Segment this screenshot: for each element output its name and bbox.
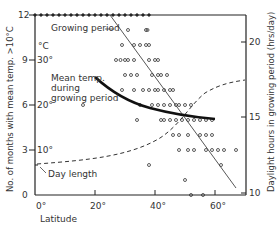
data-point bbox=[148, 89, 151, 92]
data-point bbox=[211, 134, 214, 137]
temp-tick-10: 10° bbox=[37, 146, 53, 155]
data-point bbox=[151, 104, 154, 107]
data-point bbox=[178, 134, 181, 137]
x-ticks bbox=[95, 190, 215, 195]
data-point bbox=[121, 44, 124, 47]
data-point bbox=[154, 59, 157, 62]
left-axis-title: No. of months with mean temp. >10°C bbox=[5, 26, 15, 192]
data-point bbox=[148, 44, 151, 47]
data-point bbox=[157, 59, 160, 62]
data-point bbox=[139, 44, 142, 47]
data-point bbox=[148, 59, 151, 62]
temp-tick-20: 20° bbox=[37, 101, 53, 110]
day-length-label: Day length bbox=[48, 170, 97, 179]
x-tick-20: 20° bbox=[90, 202, 106, 211]
data-point bbox=[184, 179, 187, 182]
x-axis-label: Latitude bbox=[40, 215, 77, 224]
data-point bbox=[119, 59, 122, 62]
right-tick-15: 15 bbox=[249, 113, 260, 122]
data-point bbox=[169, 104, 172, 107]
plot-svg bbox=[0, 0, 279, 227]
mean-temp-label-line3: growing period bbox=[51, 94, 119, 103]
deg-c-label: °C bbox=[38, 42, 49, 51]
data-point bbox=[235, 149, 238, 152]
y-tick-3: 3 bbox=[22, 146, 28, 155]
data-point bbox=[121, 89, 124, 92]
data-point bbox=[169, 119, 172, 122]
data-point bbox=[127, 59, 130, 62]
x-tick-40: 40° bbox=[150, 202, 166, 211]
data-point bbox=[187, 134, 190, 137]
data-point bbox=[157, 74, 160, 77]
data-point bbox=[169, 89, 172, 92]
data-point bbox=[157, 89, 160, 92]
data-point bbox=[199, 119, 202, 122]
data-point bbox=[163, 104, 166, 107]
data-point bbox=[154, 89, 157, 92]
growing-period-label: Growing period bbox=[51, 24, 120, 33]
data-point bbox=[190, 104, 193, 107]
data-point bbox=[148, 164, 151, 167]
data-point bbox=[166, 74, 169, 77]
data-point bbox=[133, 59, 136, 62]
data-point bbox=[199, 134, 202, 137]
data-point bbox=[136, 74, 139, 77]
data-point bbox=[133, 89, 136, 92]
data-point bbox=[187, 149, 190, 152]
data-point bbox=[172, 134, 175, 137]
data-point bbox=[184, 104, 187, 107]
data-point bbox=[142, 89, 145, 92]
data-point bbox=[211, 149, 214, 152]
data-point bbox=[205, 134, 208, 137]
temp-tick-30: 30° bbox=[37, 56, 53, 65]
x-tick-0: 0° bbox=[36, 202, 46, 211]
data-point bbox=[178, 104, 181, 107]
data-point bbox=[160, 74, 163, 77]
data-point bbox=[127, 29, 130, 32]
data-point bbox=[163, 119, 166, 122]
chart: Growing period Mean temp. during growing… bbox=[0, 0, 279, 227]
mean-temp-label-line1: Mean temp. bbox=[51, 74, 105, 83]
data-point bbox=[157, 104, 160, 107]
data-point bbox=[136, 119, 139, 122]
data-point bbox=[130, 74, 133, 77]
data-point bbox=[175, 119, 178, 122]
data-point bbox=[124, 59, 127, 62]
left-ticks bbox=[29, 15, 38, 165]
data-point bbox=[160, 119, 163, 122]
data-point bbox=[145, 44, 148, 47]
data-point bbox=[178, 149, 181, 152]
data-point bbox=[115, 59, 118, 62]
y-tick-6: 6 bbox=[22, 101, 28, 110]
data-point bbox=[223, 149, 226, 152]
y-tick-12: 12 bbox=[18, 11, 29, 20]
right-ticks bbox=[241, 42, 246, 193]
data-point bbox=[82, 104, 85, 107]
data-point bbox=[217, 149, 220, 152]
data-point bbox=[193, 119, 196, 122]
data-point bbox=[124, 74, 127, 77]
day-length-leader bbox=[40, 167, 46, 173]
data-point bbox=[172, 89, 175, 92]
y-tick-0: 0 bbox=[22, 191, 28, 200]
x-tick-60: 60° bbox=[210, 202, 226, 211]
data-point bbox=[193, 149, 196, 152]
right-tick-20: 20 bbox=[249, 38, 260, 47]
right-axis-title: Daylight hours in growing period (hrs/da… bbox=[266, 12, 276, 192]
mean-temp-label-line2: during bbox=[51, 84, 80, 93]
y-tick-9: 9 bbox=[22, 56, 28, 65]
right-tick-10: 10 bbox=[249, 189, 260, 198]
